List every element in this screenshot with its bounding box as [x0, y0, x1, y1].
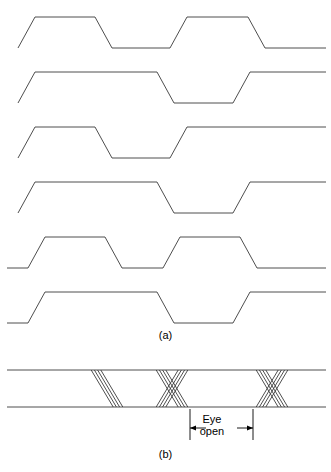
panel-a-caption: (a) [0, 329, 331, 341]
eye-open-label: Eye open [190, 414, 234, 437]
eye-diagram-figure [0, 0, 331, 472]
eye-open-label-line2: open [190, 426, 234, 438]
eye-open-label-line1: Eye [190, 414, 234, 426]
panel-b-caption: (b) [0, 448, 331, 460]
